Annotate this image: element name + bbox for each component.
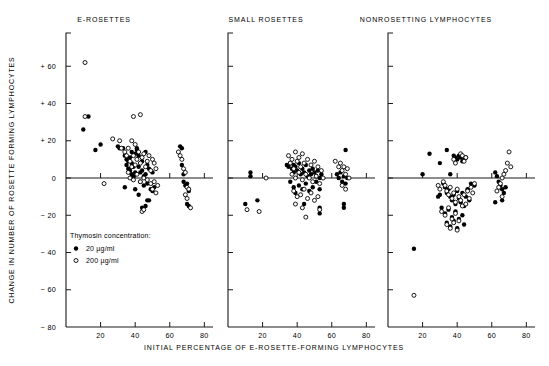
data-point [154, 191, 158, 195]
data-point [345, 167, 349, 171]
y-tick-label: + 60 [41, 62, 56, 71]
data-point [321, 176, 325, 180]
data-point [427, 152, 431, 156]
data-point [288, 180, 292, 184]
data-point [344, 172, 348, 176]
data-point [317, 187, 321, 191]
data-point [187, 187, 191, 191]
data-point [128, 159, 132, 163]
data-point [509, 165, 513, 169]
y-tick-label: − 80 [41, 323, 56, 332]
legend-title: Thymosin concentration: [70, 232, 151, 240]
data-point [505, 161, 509, 165]
data-point [312, 198, 316, 202]
data-point [180, 157, 184, 161]
data-point [340, 183, 344, 187]
data-point [318, 182, 322, 186]
data-point [507, 150, 511, 154]
data-point [248, 174, 252, 178]
x-tick-label: 20 [258, 331, 267, 340]
data-point [145, 159, 149, 163]
data-point [300, 152, 304, 156]
data-point [314, 174, 318, 178]
x-tick-label: 60 [487, 331, 496, 340]
data-point [472, 182, 476, 186]
data-point [445, 148, 449, 152]
data-point [420, 172, 424, 176]
data-point [457, 219, 461, 223]
data-point [443, 213, 447, 217]
data-point [293, 202, 297, 206]
data-point [440, 210, 444, 214]
data-point [438, 187, 442, 191]
data-point [464, 156, 468, 160]
data-point [495, 174, 499, 178]
data-point [311, 185, 315, 189]
data-point [131, 178, 135, 182]
data-point [412, 293, 416, 297]
y-tick-label: 0 [52, 174, 56, 183]
data-point [293, 176, 297, 180]
data-point [144, 165, 148, 169]
data-point [257, 210, 261, 214]
data-point [138, 180, 142, 184]
data-point [243, 202, 247, 206]
y-tick-label: + 40 [41, 99, 56, 108]
panel-title: NONROSETTING LYMPHOCYTES [360, 16, 492, 23]
data-point [255, 198, 259, 202]
data-point [137, 150, 141, 154]
data-point [304, 181, 308, 185]
data-point [150, 187, 154, 191]
data-point [309, 191, 313, 195]
data-point [455, 228, 459, 232]
data-point [316, 195, 320, 199]
data-point [299, 165, 303, 169]
data-point [133, 187, 137, 191]
y-tick-label: − 40 [41, 248, 56, 257]
data-point [493, 200, 497, 204]
y-tick-label: − 60 [41, 285, 56, 294]
data-point [304, 215, 308, 219]
data-point [300, 206, 304, 210]
data-point [448, 226, 452, 230]
scatter-plot-figure: E-ROSETTES20406080SMALL ROSETTES20406080… [0, 0, 549, 366]
data-point [452, 191, 456, 195]
data-point [93, 148, 97, 152]
data-point [185, 196, 189, 200]
data-point [131, 115, 135, 119]
data-point [156, 183, 160, 187]
data-point [447, 193, 451, 197]
data-point [500, 176, 504, 180]
data-point [118, 139, 122, 143]
data-point [466, 189, 470, 193]
data-point [438, 161, 442, 165]
data-point [83, 61, 87, 65]
data-point [111, 137, 115, 141]
x-tick-label: 40 [131, 331, 140, 340]
data-point [300, 178, 304, 182]
data-point [183, 170, 187, 174]
legend-marker-open [74, 259, 78, 263]
data-point [264, 176, 268, 180]
data-point [462, 222, 466, 226]
data-point [307, 176, 311, 180]
data-point [297, 183, 301, 187]
data-point [436, 194, 440, 198]
x-tick-label: 20 [96, 331, 105, 340]
data-point [180, 146, 184, 150]
y-tick-label: + 20 [41, 136, 56, 145]
data-point [302, 161, 306, 165]
data-point [445, 223, 449, 227]
legend-label: 200 µg/ml [86, 257, 119, 265]
data-point [102, 182, 106, 186]
x-tick-label: 80 [362, 331, 371, 340]
data-point [149, 169, 153, 173]
y-tick-label: − 20 [41, 211, 56, 220]
data-point [138, 161, 142, 165]
data-point [126, 170, 130, 174]
data-point [462, 193, 466, 197]
data-point [469, 185, 473, 189]
data-point [333, 159, 337, 163]
x-tick-label: 80 [200, 331, 209, 340]
data-point [142, 152, 146, 156]
